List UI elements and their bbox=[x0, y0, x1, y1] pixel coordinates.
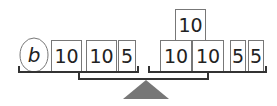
variable-b-label: b bbox=[28, 43, 41, 67]
weight-label: 5 bbox=[232, 45, 244, 67]
balance-beam bbox=[79, 72, 208, 79]
weight-label: 10 bbox=[178, 14, 202, 36]
weight-label: 10 bbox=[196, 45, 220, 67]
balance-scale-diagram: b 10 10 5 10 10 10 5 5 bbox=[0, 0, 277, 106]
weight-label: 10 bbox=[54, 45, 78, 67]
weight-label: 5 bbox=[121, 45, 133, 67]
weight-label: 5 bbox=[250, 45, 262, 67]
right-pan: 10 10 10 5 5 bbox=[149, 10, 266, 73]
weight-label: 10 bbox=[89, 45, 113, 67]
left-pan: b 10 10 5 bbox=[19, 38, 138, 72]
fulcrum-triangle bbox=[123, 80, 169, 99]
weight-label: 10 bbox=[164, 45, 188, 67]
